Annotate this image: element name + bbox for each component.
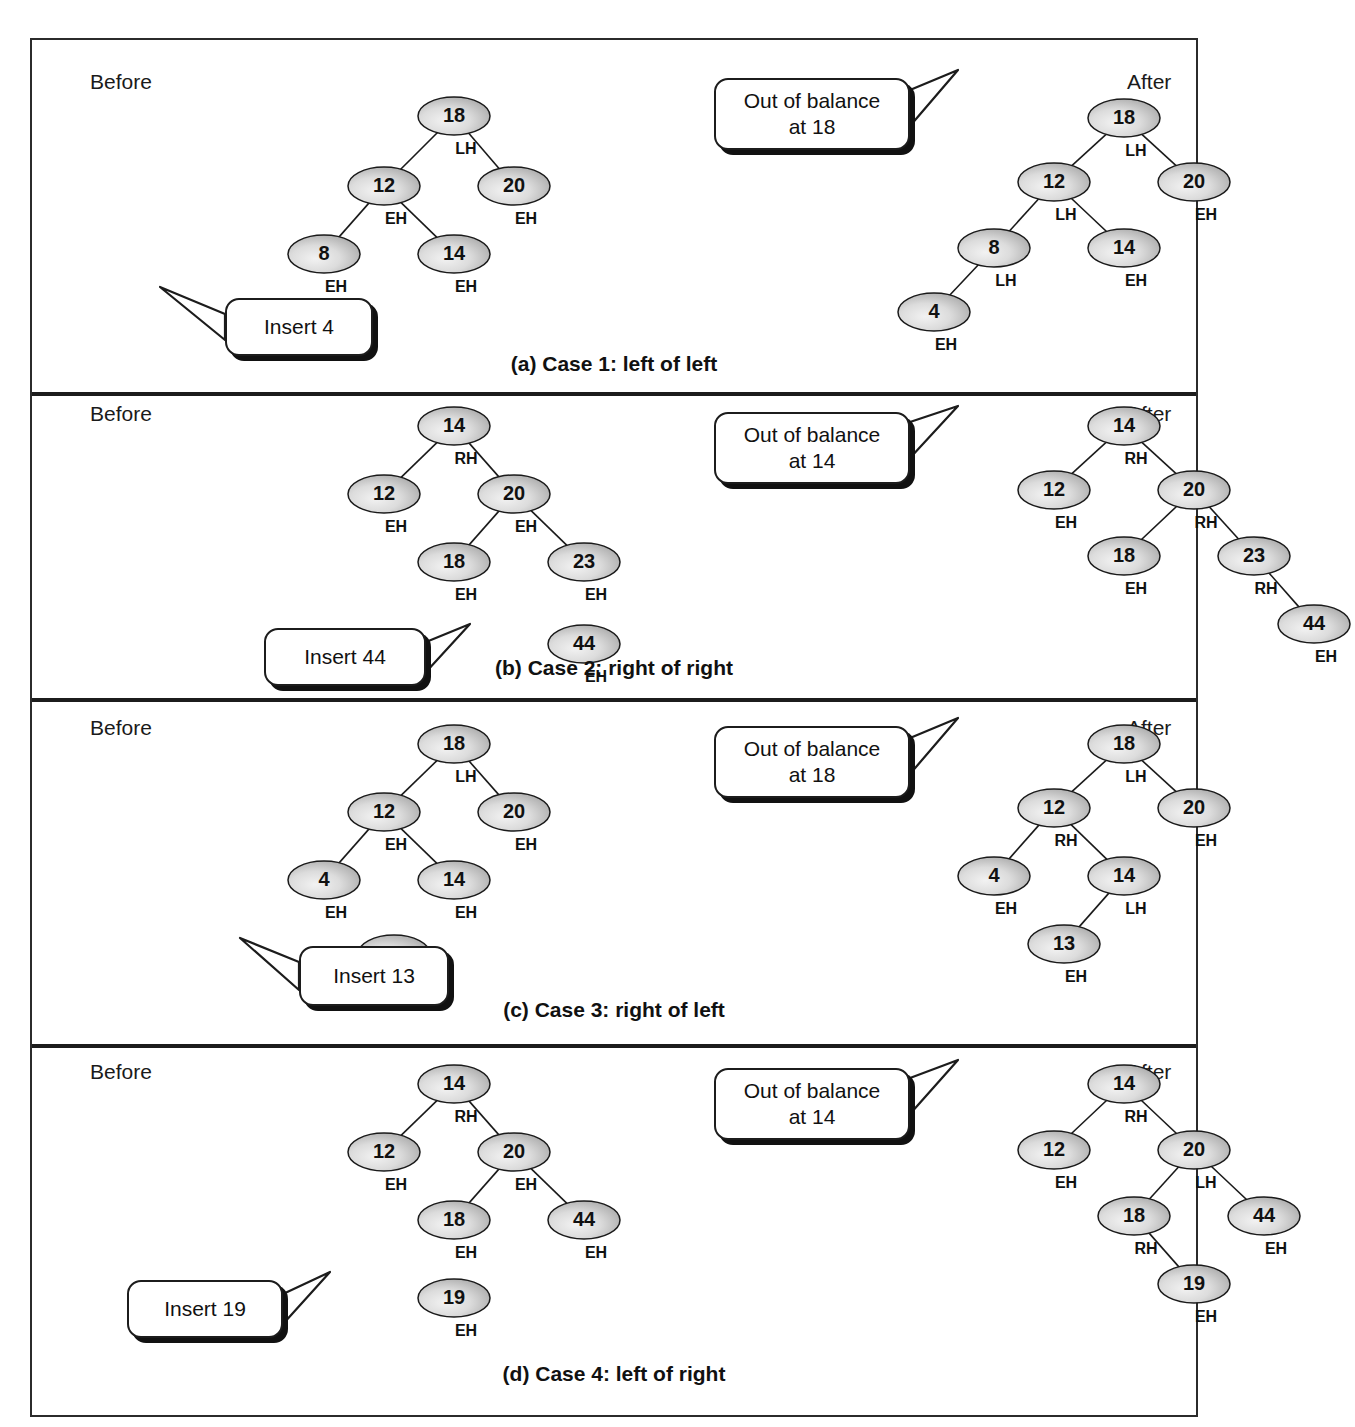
tree-node-20: 20EH	[478, 167, 550, 227]
tree-node-value: 12	[1043, 478, 1065, 500]
balance-factor-label: EH	[585, 1244, 607, 1261]
figure-frame: BeforeAfter18LH12EH20EH8EH14EH4EH18LH12L…	[30, 38, 1198, 1417]
tree-node-value: 18	[1113, 732, 1135, 754]
tree-node-value: 44	[1253, 1204, 1276, 1226]
case4-out-of-balance-callout[interactable]: Out of balanceat 14	[714, 1068, 910, 1140]
balance-factor-label: EH	[455, 904, 477, 921]
tree-node-value: 14	[443, 242, 466, 264]
tree-node-value: 44	[573, 632, 596, 654]
balance-factor-label: EH	[325, 904, 347, 921]
before-label: Before	[90, 70, 152, 94]
tree-node-44: 44EH	[1278, 605, 1350, 665]
case2-insert-callout[interactable]: Insert 44	[264, 628, 426, 686]
panel-divider	[32, 392, 1196, 396]
tree-node-19: 19EH	[418, 1279, 490, 1339]
balance-factor-label: EH	[1125, 272, 1147, 289]
case2-out-of-balance-callout-text: Out of balanceat 14	[744, 422, 881, 473]
tree-node-value: 8	[988, 236, 999, 258]
tree-node-value: 18	[1113, 106, 1135, 128]
tree-node-14: 14EH	[418, 861, 490, 921]
balance-factor-label: EH	[455, 1322, 477, 1339]
balance-factor-label: RH	[454, 1108, 477, 1125]
balance-factor-label: RH	[454, 450, 477, 467]
balance-factor-label: RH	[1124, 450, 1147, 467]
tree-node-12: 12EH	[1018, 471, 1090, 531]
tree-node-value: 20	[503, 1140, 525, 1162]
tree-node-20: 20LH	[1158, 1131, 1230, 1191]
case3-out-of-balance-callout[interactable]: Out of balanceat 18	[714, 726, 910, 798]
tree-node-value: 14	[1113, 1072, 1136, 1094]
case1-out-of-balance-callout-text: Out of balanceat 18	[744, 88, 881, 139]
tree-node-20: 20RH	[1158, 471, 1230, 531]
panel-divider	[32, 698, 1196, 702]
tree-node-value: 14	[1113, 864, 1136, 886]
tree-node-14: 14RH	[1088, 1065, 1160, 1125]
tree-node-value: 18	[443, 1208, 465, 1230]
tree-node-20: 20EH	[478, 1133, 550, 1193]
tree-node-value: 20	[503, 800, 525, 822]
balance-factor-label: EH	[1195, 1308, 1217, 1325]
case4-insert-callout[interactable]: Insert 19	[127, 1280, 283, 1338]
panel-case3: BeforeAfter18LH12EH20EH4EH14EH13EH18LH12…	[32, 698, 1196, 1040]
tree-node-value: 18	[443, 550, 465, 572]
case1-out-of-balance-callout[interactable]: Out of balanceat 18	[714, 78, 910, 150]
tree-node-value: 23	[1243, 544, 1265, 566]
panel-divider	[32, 1044, 1196, 1048]
tree-node-value: 14	[443, 1072, 466, 1094]
tree-node-18: 18EH	[1088, 537, 1160, 597]
balance-factor-label: LH	[1125, 900, 1146, 917]
case2-insert-callout-text: Insert 44	[304, 644, 386, 670]
tree-node-8: 8EH	[288, 235, 360, 295]
balance-factor-label: EH	[935, 336, 957, 353]
balance-factor-label: EH	[1055, 1174, 1077, 1191]
balance-factor-label: EH	[1315, 648, 1337, 665]
tree-node-18: 18EH	[418, 1201, 490, 1261]
case3-insert-callout[interactable]: Insert 13	[299, 946, 449, 1006]
panel-caption: (d) Case 4: left of right	[32, 1362, 1196, 1386]
case4-insert-callout-tail	[279, 1268, 334, 1328]
balance-factor-label: RH	[1254, 580, 1277, 597]
tree-node-value: 44	[573, 1208, 596, 1230]
case3-insert-callout-tail	[236, 934, 303, 994]
balance-factor-label: LH	[455, 768, 476, 785]
balance-factor-label: EH	[515, 518, 537, 535]
balance-factor-label: LH	[1195, 1174, 1216, 1191]
case2-out-of-balance-callout[interactable]: Out of balanceat 14	[714, 412, 910, 484]
balance-factor-label: EH	[1065, 968, 1087, 985]
balance-factor-label: RH	[1134, 1240, 1157, 1257]
balance-factor-label: EH	[385, 836, 407, 853]
balance-factor-label: EH	[1125, 580, 1147, 597]
tree-node-18: 18LH	[418, 725, 490, 785]
balance-factor-label: EH	[455, 1244, 477, 1261]
panel-caption: (a) Case 1: left of left	[32, 352, 1196, 376]
tree-node-12: 12LH	[1018, 163, 1090, 223]
tree-node-value: 20	[1183, 170, 1205, 192]
balance-factor-label: EH	[1265, 1240, 1287, 1257]
tree-node-12: 12EH	[348, 167, 420, 227]
tree-node-18: 18RH	[1098, 1197, 1170, 1257]
tree-node-14: 14EH	[418, 235, 490, 295]
balance-factor-label: EH	[385, 1176, 407, 1193]
panel-caption: (c) Case 3: right of left	[32, 998, 1196, 1022]
balance-factor-label: EH	[455, 278, 477, 295]
tree-node-value: 4	[928, 300, 940, 322]
tree-node-18: 18EH	[418, 543, 490, 603]
tree-node-14: 14RH	[418, 407, 490, 467]
balance-factor-label: LH	[1055, 206, 1076, 223]
case1-out-of-balance-callout-tail	[906, 66, 962, 130]
case1-insert-callout[interactable]: Insert 4	[225, 298, 373, 356]
balance-factor-label: EH	[455, 586, 477, 603]
tree-node-18: 18LH	[1088, 725, 1160, 785]
tree-node-20: 20EH	[1158, 789, 1230, 849]
tree-node-value: 18	[1113, 544, 1135, 566]
tree-node-value: 20	[1183, 796, 1205, 818]
tree-node-value: 20	[503, 482, 525, 504]
balance-factor-label: EH	[585, 586, 607, 603]
tree-node-14: 14EH	[1088, 229, 1160, 289]
before-label: Before	[90, 716, 152, 740]
tree-node-14: 14RH	[1088, 407, 1160, 467]
panel-case1: BeforeAfter18LH12EH20EH8EH14EH4EH18LH12L…	[32, 40, 1196, 388]
tree-node-14: 14RH	[418, 1065, 490, 1125]
tree-node-12: 12EH	[348, 793, 420, 853]
before-label: Before	[90, 1060, 152, 1084]
